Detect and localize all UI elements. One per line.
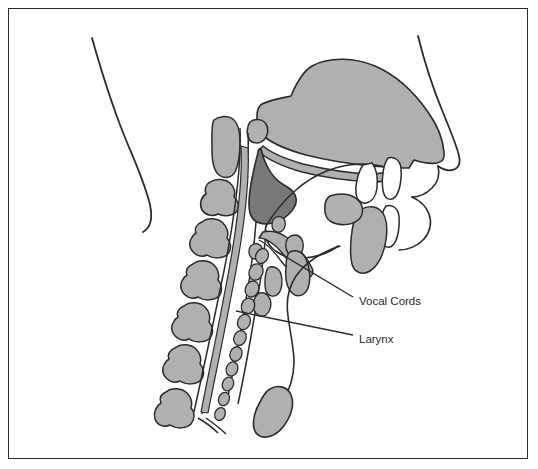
cricoid-cartilage (265, 267, 282, 296)
upper-lip-line (412, 166, 439, 197)
upper-incisor (382, 157, 401, 199)
vertebra-c6 (163, 345, 204, 384)
superior-cartilage-nodule (272, 217, 285, 233)
vertebra-c2 (201, 179, 239, 215)
vertebra-c5 (172, 303, 213, 342)
tracheal-ring (213, 406, 227, 422)
neck-profile-line (92, 38, 151, 232)
tracheal-ring (224, 360, 240, 378)
tracheal-ring (231, 329, 248, 348)
vertebra-odontoid (247, 120, 268, 143)
lower-lip-line (399, 197, 430, 250)
vertebra-c4 (181, 261, 222, 300)
label-larynx: Larynx (359, 333, 394, 345)
tracheal-ring (220, 375, 235, 392)
nasal-palate-mass (257, 59, 444, 168)
sternum-manubrium (253, 387, 292, 438)
tracheal-ring (228, 345, 244, 363)
vertebra-c7 (154, 389, 194, 428)
vertebra-c1 (212, 116, 240, 177)
palatine-spur (356, 163, 377, 203)
anatomy-diagram: Vocal Cords Larynx (0, 0, 538, 469)
figure-root: Vocal Cords Larynx (0, 0, 538, 469)
vertebra-c3 (190, 219, 231, 258)
arytenoid-cartilage (253, 293, 271, 316)
label-vocal-cords: Vocal Cords (359, 295, 421, 307)
tracheal-ring (235, 312, 253, 331)
